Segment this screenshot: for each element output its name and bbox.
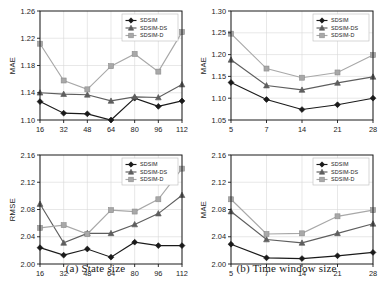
data-point-marker: [84, 111, 90, 117]
data-point-marker: [264, 255, 270, 261]
x-tick-label: 112: [176, 125, 188, 134]
x-tick-label: 7: [264, 125, 268, 134]
y-tick-label: 1.10: [212, 94, 226, 103]
y-tick-label: 2.08: [21, 205, 35, 214]
data-point-marker: [335, 102, 341, 108]
data-point-marker: [335, 253, 341, 259]
legend-label: SDSIM-D: [140, 176, 163, 182]
legend-marker: [320, 177, 325, 182]
y-tick-label: 1.26: [21, 7, 35, 16]
data-point-marker: [264, 66, 269, 71]
data-point-marker: [132, 209, 137, 214]
chart-a-top: 1.101.141.181.221.26163248648096112MAESD…: [0, 2, 191, 142]
legend-label: SDSIM-D: [331, 32, 354, 38]
legend-marker: [129, 33, 134, 38]
y-tick-label: 1.25: [212, 28, 226, 37]
data-point-marker: [85, 87, 90, 92]
data-point-marker: [264, 97, 270, 103]
legend-label: SDSIM: [140, 161, 158, 167]
data-point-marker: [335, 70, 340, 75]
legend-marker: [320, 33, 325, 38]
data-point-marker: [155, 243, 161, 249]
data-point-marker: [300, 231, 305, 236]
y-tick-label: 1.05: [212, 116, 226, 125]
y-tick-label: 2.12: [21, 178, 35, 187]
y-tick-label: 2.08: [212, 205, 226, 214]
x-tick-label: 80: [131, 125, 139, 134]
y-axis-title: MAE: [199, 201, 208, 219]
y-tick-label: 1.15: [212, 72, 226, 81]
data-point-marker: [132, 239, 138, 245]
data-point-marker: [300, 75, 305, 80]
y-tick-label: 1.20: [212, 50, 226, 59]
data-point-marker: [61, 252, 67, 258]
y-tick-label: 2.16: [21, 151, 35, 160]
x-tick-label: 32: [60, 125, 68, 134]
legend-label: SDSIM-DS: [140, 169, 167, 175]
x-tick-label: 28: [369, 125, 377, 134]
legend-label: SDSIM-DS: [331, 169, 358, 175]
legend-label: SDSIM: [331, 161, 349, 167]
y-tick-label: 2.04: [21, 232, 35, 241]
y-tick-label: 1.10: [21, 116, 35, 125]
data-point-marker: [156, 197, 161, 202]
legend-marker: [129, 177, 134, 182]
data-point-marker: [108, 254, 114, 260]
y-tick-label: 2.12: [212, 178, 226, 187]
x-tick-label: 48: [83, 125, 91, 134]
data-point-marker: [132, 51, 137, 56]
data-point-marker: [264, 232, 269, 237]
data-point-marker: [335, 214, 340, 219]
y-tick-label: 1.22: [21, 34, 35, 43]
data-point-marker: [109, 64, 114, 69]
data-point-marker: [61, 110, 67, 116]
chart-b-top: 1.051.101.151.201.251.3057142128MAESDSIM…: [191, 2, 382, 142]
legend-label: SDSIM: [140, 17, 158, 23]
data-point-marker: [61, 223, 66, 228]
caption-panel-a: (a) State size: [0, 262, 191, 274]
legend-label: SDSIM-D: [140, 32, 163, 38]
y-axis-title: MAE: [199, 57, 208, 75]
x-tick-label: 64: [107, 125, 115, 134]
x-tick-label: 96: [154, 125, 162, 134]
legend-label: SDSIM-DS: [331, 25, 358, 31]
data-point-marker: [156, 69, 161, 74]
y-tick-label: 2.16: [212, 151, 226, 160]
data-point-marker: [61, 78, 66, 83]
data-point-marker: [84, 246, 90, 252]
x-tick-label: 5: [229, 125, 233, 134]
figure-container: 1.101.141.181.221.26163248648096112MAESD…: [0, 0, 382, 297]
legend-label: SDSIM-D: [331, 176, 354, 182]
y-tick-label: 1.30: [212, 7, 226, 16]
legend-label: SDSIM: [331, 17, 349, 23]
data-point-marker: [299, 107, 305, 113]
x-tick-label: 16: [36, 125, 44, 134]
data-point-marker: [299, 256, 305, 262]
x-tick-label: 14: [298, 125, 306, 134]
data-point-marker: [85, 232, 90, 237]
y-tick-label: 1.18: [21, 61, 35, 70]
data-point-marker: [155, 103, 161, 109]
x-tick-label: 21: [333, 125, 341, 134]
panel-state-size: 1.101.141.181.221.26163248648096112MAESD…: [0, 0, 191, 297]
chart-plot-area: 1.101.141.181.221.26163248648096112MAESD…: [0, 2, 191, 142]
panel-time-window-size: 1.051.101.151.201.251.3057142128MAESDSIM…: [191, 0, 382, 297]
legend-label: SDSIM-DS: [140, 25, 167, 31]
y-tick-label: 2.04: [212, 232, 226, 241]
data-point-marker: [109, 208, 114, 213]
y-tick-label: 1.14: [21, 88, 35, 97]
y-axis-title: MAE: [8, 57, 17, 75]
y-axis-title: RMSE: [8, 198, 17, 222]
chart-plot-area: 1.051.101.151.201.251.3057142128MAESDSIM…: [191, 2, 382, 142]
caption-panel-b: (b) Time window size: [191, 262, 382, 274]
